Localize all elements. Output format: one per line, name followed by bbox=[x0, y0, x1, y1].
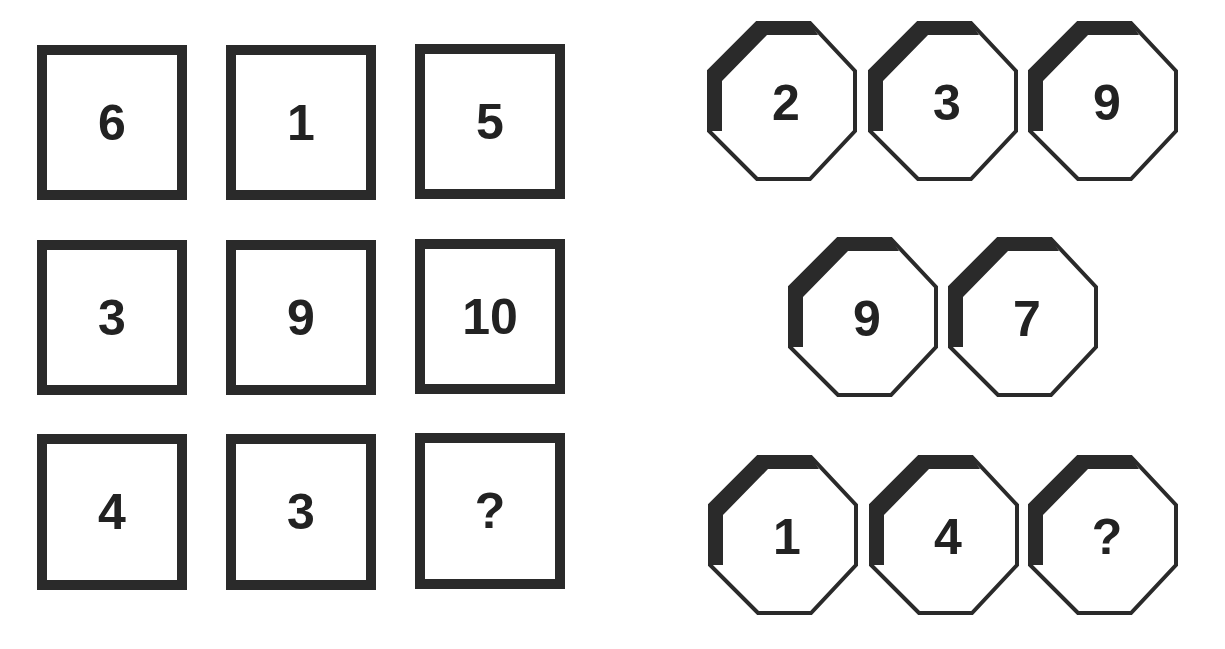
square-r1c2: 1 bbox=[226, 45, 376, 200]
square-value: 3 bbox=[98, 293, 126, 343]
square-value: 5 bbox=[476, 97, 504, 147]
square-value: ? bbox=[475, 486, 506, 536]
octagon-value: 4 bbox=[869, 455, 1019, 615]
octagon-value: 7 bbox=[948, 237, 1098, 397]
octagon-r2c1: 9 bbox=[788, 237, 938, 397]
octagon-value: ? bbox=[1028, 455, 1178, 615]
square-r1c3: 5 bbox=[415, 44, 565, 199]
square-value: 10 bbox=[462, 292, 518, 342]
square-r3c1: 4 bbox=[37, 434, 187, 590]
square-r2c2: 9 bbox=[226, 240, 376, 395]
square-r2c1: 3 bbox=[37, 240, 187, 395]
octagon-r3c1: 1 bbox=[708, 455, 858, 615]
octagon-value: 2 bbox=[707, 21, 857, 181]
square-value: 6 bbox=[98, 98, 126, 148]
octagon-value: 3 bbox=[868, 21, 1018, 181]
octagon-r3c2: 4 bbox=[869, 455, 1019, 615]
octagon-r3c3: ? bbox=[1028, 455, 1178, 615]
octagon-r1c2: 3 bbox=[868, 21, 1018, 181]
octagon-value: 9 bbox=[1028, 21, 1178, 181]
octagon-value: 1 bbox=[708, 455, 858, 615]
octagon-r1c1: 2 bbox=[707, 21, 857, 181]
square-r1c1: 6 bbox=[37, 45, 187, 200]
square-value: 3 bbox=[287, 487, 315, 537]
square-value: 1 bbox=[287, 98, 315, 148]
square-value: 9 bbox=[287, 293, 315, 343]
octagon-r2c2: 7 bbox=[948, 237, 1098, 397]
octagon-r1c3: 9 bbox=[1028, 21, 1178, 181]
square-r2c3: 10 bbox=[415, 239, 565, 394]
square-r3c3: ? bbox=[415, 433, 565, 589]
octagon-value: 9 bbox=[788, 237, 938, 397]
square-r3c2: 3 bbox=[226, 434, 376, 590]
square-value: 4 bbox=[98, 487, 126, 537]
